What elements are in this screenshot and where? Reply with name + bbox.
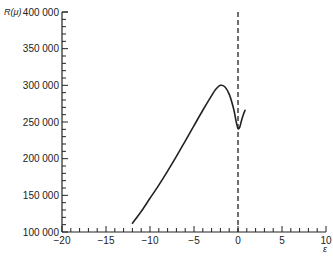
- y-tick-label: 250 000: [23, 117, 60, 128]
- y-axis-title: R(μ): [4, 7, 21, 17]
- y-axis: 100 000150 000200 000250 000300 000350 0…: [23, 7, 68, 238]
- x-axis: −20−15−10−50510: [54, 226, 332, 246]
- x-tick-label: 0: [235, 235, 241, 246]
- series-line: [132, 85, 245, 223]
- y-tick-label: 150 000: [23, 190, 60, 201]
- x-tick-label: 5: [279, 235, 285, 246]
- y-tick-label: 400 000: [23, 7, 60, 18]
- series-curve: [132, 85, 245, 223]
- chart: 100 000150 000200 000250 000300 000350 0…: [0, 0, 333, 257]
- x-tick-label: −10: [142, 235, 159, 246]
- y-tick-label: 350 000: [23, 43, 60, 54]
- x-tick-label: −5: [188, 235, 200, 246]
- x-tick-label: −15: [98, 235, 115, 246]
- y-tick-label: 200 000: [23, 153, 60, 164]
- y-tick-label: 300 000: [23, 80, 60, 91]
- x-tick-label: −20: [54, 235, 71, 246]
